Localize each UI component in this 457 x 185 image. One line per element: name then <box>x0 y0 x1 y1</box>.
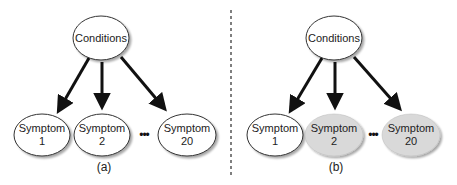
panel-a-caption: (a) <box>97 160 112 174</box>
edge-conditions-symptom-20 <box>354 57 399 108</box>
ellipsis-dots: ••• <box>368 128 378 142</box>
node-symptom-1-label: Symptom <box>252 122 298 134</box>
node-symptom-2-label: Symptom <box>311 122 357 134</box>
node-symptom-20-label: Symptom <box>164 122 210 134</box>
node-symptom-2-number: 2 <box>99 135 105 147</box>
panel-a: Conditions Symptom 1 Symptom 2 ••• Sympt… <box>14 16 216 174</box>
panel-b: Conditions Symptom 1 Symptom 2 ••• Sympt… <box>247 16 440 174</box>
bayesian-network-diagram: Conditions Symptom 1 Symptom 2 ••• Sympt… <box>0 0 457 185</box>
node-symptom-1-number: 1 <box>272 135 278 147</box>
node-symptom-1-number: 1 <box>39 135 45 147</box>
edge-conditions-symptom-1 <box>291 58 322 110</box>
node-symptom-2-label: Symptom <box>79 122 125 134</box>
edge-conditions-symptom-20 <box>121 57 164 108</box>
node-symptom-2-number: 2 <box>331 135 337 147</box>
edge-conditions-symptom-1 <box>59 58 89 110</box>
node-symptom-1-label: Symptom <box>19 122 65 134</box>
node-symptom-20-number: 20 <box>181 135 193 147</box>
panel-b-caption: (b) <box>329 160 344 174</box>
node-conditions-label: Conditions <box>308 32 360 44</box>
ellipsis-dots: ••• <box>139 128 149 142</box>
node-symptom-20-label: Symptom <box>388 122 434 134</box>
node-symptom-20-number: 20 <box>405 135 417 147</box>
node-conditions-label: Conditions <box>75 32 127 44</box>
